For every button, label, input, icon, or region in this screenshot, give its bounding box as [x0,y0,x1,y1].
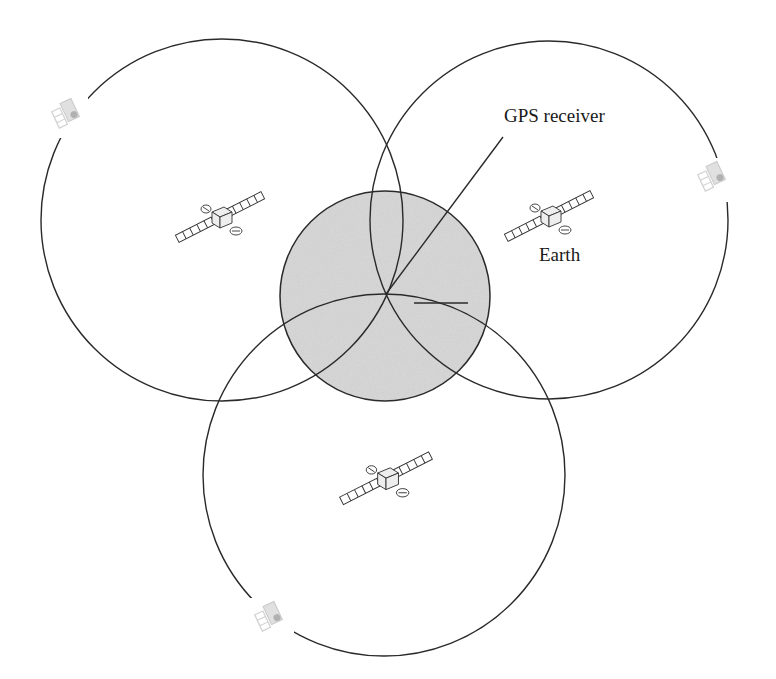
satellite-icon-right [504,191,593,242]
satellite-icon-left [175,192,264,243]
gps-diagram: GPS receiver Earth [0,0,776,679]
gps-receiver-label: GPS receiver [504,105,605,127]
diagram-canvas [0,0,776,679]
satellite-icon-bottom [340,452,433,505]
earth [280,191,490,401]
earth-label: Earth [539,244,580,266]
